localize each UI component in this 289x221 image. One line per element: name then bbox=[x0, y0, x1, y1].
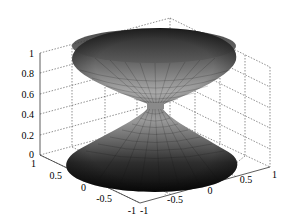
svg-text:0.4: 0.4 bbox=[22, 109, 35, 120]
z-axis-ticks: 1 0.8 0.6 0.4 0.2 0 bbox=[22, 48, 35, 160]
svg-text:0.6: 0.6 bbox=[22, 89, 35, 100]
svg-text:1: 1 bbox=[31, 158, 36, 169]
svg-text:0: 0 bbox=[208, 185, 213, 196]
svg-text:0: 0 bbox=[81, 182, 86, 193]
svg-text:0.5: 0.5 bbox=[240, 174, 253, 185]
svg-text:-0.5: -0.5 bbox=[167, 194, 183, 205]
svg-text:1: 1 bbox=[29, 48, 34, 59]
svg-text:-0.5: -0.5 bbox=[96, 193, 112, 204]
surface-plot: 1 0.8 0.6 0.4 0.2 0 1 0.5 0 -0.5 -1 -1 -… bbox=[0, 0, 289, 221]
svg-text:-1: -1 bbox=[128, 205, 136, 216]
svg-text:0.5: 0.5 bbox=[50, 170, 63, 181]
svg-text:-1: -1 bbox=[140, 205, 148, 216]
upper-bowl bbox=[72, 28, 236, 104]
svg-text:0.8: 0.8 bbox=[22, 68, 35, 79]
svg-text:1: 1 bbox=[272, 169, 277, 180]
waist bbox=[147, 103, 164, 109]
svg-text:0.2: 0.2 bbox=[22, 130, 35, 141]
